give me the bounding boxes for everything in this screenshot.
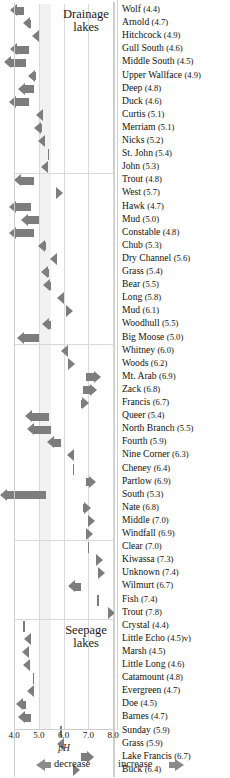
lake-label: Middle South (4.5) (122, 55, 193, 67)
lake-name: Nicks (122, 134, 147, 145)
lake-label: Grass (5.4) (122, 265, 163, 277)
x-tick-label: 7.0 (83, 730, 94, 740)
lake-ph-value: (4.5) (149, 646, 165, 656)
lake-name: Partlow (122, 475, 154, 486)
lake-name: Wolf (122, 3, 143, 14)
lake-ph-value: (7.3) (157, 554, 173, 564)
lake-name: Hitchcock (122, 29, 164, 40)
lake-name: Bear (122, 278, 143, 289)
lake-name: Marsh (122, 645, 149, 656)
lake-name: Upper Wallface (122, 69, 184, 80)
lake-name: Middle South (122, 55, 177, 66)
lake-label: Little Echo (4.5)v) (122, 632, 191, 644)
lake-ph-value: (4.7) (164, 685, 180, 695)
lake-label: Queer (5.4) (122, 409, 164, 421)
lake-label: Francis (6.7) (122, 396, 169, 408)
ph-change-chart: DrainagelakesSeepagelakes Wolf (4.4)Arno… (0, 0, 230, 778)
lake-label: South (5.3) (122, 488, 163, 500)
lake-name: Windfall (122, 527, 158, 538)
lake-label: Fish (7.4) (122, 593, 157, 605)
lake-label-column: Wolf (4.4)Arnold (4.7)Hitchcock (4.9)Gul… (117, 0, 230, 730)
lake-label: John (5.3) (122, 160, 159, 172)
lake-ph-value: (5.4) (146, 266, 162, 276)
lake-label: Hitchcock (4.9) (122, 29, 180, 41)
lake-name: Gull South (122, 42, 166, 53)
lake-label: Woodhull (5.5) (122, 317, 178, 329)
lake-label: Middle (7.0) (122, 514, 169, 526)
x-axis-title: pH (58, 743, 70, 753)
lake-ph-value: (4.7) (147, 201, 163, 211)
lake-ph-value: (5.7) (143, 187, 159, 197)
lake-ph-value: (5.3) (147, 489, 163, 499)
lake-label: Merriam (5.1) (122, 121, 174, 133)
lake-label: Zack (6.8) (122, 383, 160, 395)
lake-ph-value: (6.7) (153, 397, 169, 407)
lake-label: Woods (6.2) (122, 357, 167, 369)
lake-label: West (5.7) (122, 186, 160, 198)
lake-ph-value: (5.1) (158, 122, 174, 132)
lake-label: Catamount (4.8) (122, 671, 183, 683)
lake-label: Evergreen (4.7) (122, 684, 180, 696)
lake-name: Merriam (122, 121, 158, 132)
lake-ph-value: (5.5) (162, 318, 178, 328)
lake-label: Wolf (4.4) (122, 3, 160, 15)
lake-ph-value: (5.9) (150, 436, 166, 446)
lake-ph-value: (4.5) (140, 698, 156, 708)
lake-label: Nicks (5.2) (122, 134, 163, 146)
lake-name: Arnold (122, 16, 152, 27)
lake-ph-value: (5.4) (155, 148, 171, 158)
lake-label: Kiwassa (7.3) (122, 553, 173, 565)
lake-label: Windfall (6.9) (122, 527, 175, 539)
lake-ph-value: (4.5)v) (167, 633, 191, 643)
lake-ph-value: (5.6) (174, 253, 190, 263)
lake-label: Hawk (4.7) (122, 200, 164, 212)
lake-label: Trout (7.8) (122, 606, 162, 618)
lake-ph-value: (5.8) (145, 292, 161, 302)
lake-ph-value: (6.7) (157, 580, 173, 590)
lake-label: Big Moose (5.0) (122, 331, 183, 343)
lake-name: Duck (122, 95, 145, 106)
legend-label-decrease: decrease (54, 758, 90, 769)
lake-name: Whitney (122, 344, 157, 355)
lake-label: Long (5.8) (122, 291, 161, 303)
lake-label: Upper Wallface (4.9) (122, 69, 201, 81)
lake-ph-value: (4.7) (151, 711, 167, 721)
lake-ph-value: (6.9) (159, 371, 175, 381)
lake-label: Little Long (4.6) (122, 658, 184, 670)
lake-name: Crystal (122, 619, 152, 630)
lake-name: Chub (122, 239, 145, 250)
arrow-left-icon (36, 759, 45, 771)
lake-name: Fourth (122, 435, 150, 446)
lake-name: Mt. Arab (122, 370, 159, 381)
lake-label: Dry Channel (5.6) (122, 252, 190, 264)
legend-decrease-shaft (45, 762, 51, 768)
lake-label: Mud (6.1) (122, 304, 159, 316)
lake-label: Fourth (5.9) (122, 435, 166, 447)
lake-label: Mud (5.0) (122, 213, 159, 225)
lake-label: Chub (5.3) (122, 239, 162, 251)
lake-label: Duck (4.6) (122, 95, 162, 107)
lake-label: North Branch (5.5) (122, 422, 193, 434)
lake-label: Trout (4.8) (122, 173, 162, 185)
lake-name: Trout (122, 173, 145, 184)
lake-label: Barnes (4.7) (122, 710, 168, 722)
lake-label: Cheney (6.4) (122, 462, 170, 474)
lake-ph-value: (5.0) (143, 214, 159, 224)
lake-ph-value: (4.6) (145, 96, 161, 106)
lake-label: Nate (6.8) (122, 501, 159, 513)
lake-ph-value: (6.8) (144, 384, 160, 394)
lake-label: Crystal (4.4) (122, 619, 169, 631)
lake-name: Nine Corner (122, 448, 172, 459)
lake-name: Mud (122, 213, 143, 224)
legend: decrease increase (0, 757, 230, 778)
lake-label: Marsh (4.5) (122, 645, 165, 657)
lake-name: Middle (122, 514, 152, 525)
lake-ph-value: (4.6) (168, 659, 184, 669)
lake-ph-value: (4.5) (177, 56, 193, 66)
lake-ph-value: (6.2) (151, 358, 167, 368)
lake-ph-value: (7.4) (162, 567, 178, 577)
lake-label: Partlow (6.9) (122, 475, 171, 487)
lake-ph-value: (4.4) (143, 4, 159, 14)
lake-name: Fish (122, 593, 141, 604)
lake-ph-value: (4.8) (145, 83, 161, 93)
